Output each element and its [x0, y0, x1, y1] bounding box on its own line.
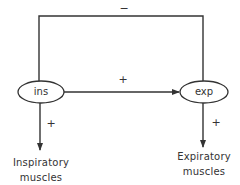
exp-to-muscles-sign: +: [211, 117, 220, 128]
feedback-sign: −: [119, 3, 128, 14]
expiratory-label-line1: Expiratory: [177, 152, 231, 162]
ins-node-label: ins: [34, 87, 48, 97]
exp-node-label: exp: [195, 87, 213, 97]
inspiratory-label-line2: muscles: [20, 173, 62, 183]
expiratory-label-line2: muscles: [183, 167, 225, 177]
ins-to-exp-sign: +: [118, 74, 127, 85]
ins-to-muscles-sign: +: [46, 118, 55, 129]
inspiratory-label-line1: Inspiratory: [13, 158, 69, 168]
